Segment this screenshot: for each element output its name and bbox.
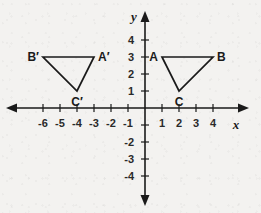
triangle-abc-outline xyxy=(162,57,213,91)
x-tick-label-4: 4 xyxy=(210,117,217,129)
y-axis-name-label: y xyxy=(129,9,137,24)
x-axis-name-label: x xyxy=(232,117,240,132)
x-tick-label-1: 1 xyxy=(159,117,165,129)
x-axis-tick-labels: -6 -5 -4 -3 -2 -1 1 2 3 4 xyxy=(38,117,217,129)
x-axis-right-arrow-icon xyxy=(238,104,249,113)
vertex-label-b: B xyxy=(217,50,226,64)
y-tick-label--4: -4 xyxy=(124,170,135,182)
vertex-label-c: C xyxy=(175,95,184,109)
x-tick-label--4: -4 xyxy=(72,117,83,129)
y-tick-label--3: -3 xyxy=(124,153,134,165)
y-axis-up-arrow-icon xyxy=(141,11,150,22)
x-tick-label-3: 3 xyxy=(193,117,199,129)
coordinate-plot: -6 -5 -4 -3 -2 -1 1 2 3 4 4 3 2 1 -2 -3 … xyxy=(0,0,261,213)
vertex-label-a: A xyxy=(149,50,158,64)
y-tick-label-2: 2 xyxy=(128,68,134,80)
y-tick-label-3: 3 xyxy=(128,51,134,63)
y-tick-label--2: -2 xyxy=(124,136,134,148)
x-tick-label--3: -3 xyxy=(89,117,99,129)
y-tick-label-4: 4 xyxy=(128,34,135,46)
x-tick-label-2: 2 xyxy=(176,117,182,129)
x-tick-label--5: -5 xyxy=(55,117,65,129)
x-tick-label--1: -1 xyxy=(123,117,133,129)
triangle-a-prime-b-prime-c-prime-outline xyxy=(43,57,94,91)
x-tick-label--2: -2 xyxy=(106,117,116,129)
vertex-label-a-prime: A′ xyxy=(98,50,110,64)
triangle-a-prime-b-prime-c-prime: A′ B′ C′ xyxy=(27,50,109,109)
vertex-label-c-prime: C′ xyxy=(71,95,83,109)
y-tick-label-1: 1 xyxy=(128,85,134,97)
x-axis-left-arrow-icon xyxy=(6,104,17,113)
vertex-label-b-prime: B′ xyxy=(27,50,39,64)
triangle-abc: A B C xyxy=(149,50,226,109)
y-axis-down-arrow-icon xyxy=(141,195,150,206)
coordinate-plane-figure: -6 -5 -4 -3 -2 -1 1 2 3 4 4 3 2 1 -2 -3 … xyxy=(0,0,261,213)
x-tick-label--6: -6 xyxy=(38,117,48,129)
